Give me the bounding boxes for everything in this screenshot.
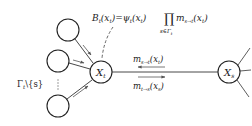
neighbor-node-3: [47, 95, 69, 117]
arrow-in-1: [83, 45, 91, 55]
dashed-belief-pointer: [102, 27, 113, 58]
ellipsis-dots: [57, 79, 58, 89]
message-passing-diagram: Xt Xs Bt(xt)=ψt(xt) ∏ s∈Γt ms→t(xt) Γt\{…: [0, 0, 252, 126]
neighbor-node-2: [47, 50, 69, 72]
edge-neighbor-1: [75, 39, 93, 63]
product-subscript: s∈Γt: [160, 28, 173, 36]
edge-xs-out-1: [238, 48, 250, 65]
arrow-in-3: [73, 86, 88, 97]
edge-xs-out-2: [240, 70, 251, 71]
edge-xs-out-3: [237, 80, 249, 97]
edge-neighbor-2: [69, 63, 90, 69]
neighbor-node-1: [57, 19, 79, 41]
edge-neighbor-3: [67, 80, 92, 99]
product-term: ms→t(xt): [176, 13, 208, 24]
product-symbol: ∏: [164, 11, 174, 26]
belief-formula: Bt(xt)=ψt(xt): [91, 13, 147, 24]
neighbor-set-label: Γt\{s}: [17, 79, 43, 90]
message-s-to-t-label: ms→t(xt): [133, 54, 163, 65]
arrow-in-2: [73, 60, 84, 63]
message-t-to-s-label: mt→s(xs): [133, 81, 164, 92]
